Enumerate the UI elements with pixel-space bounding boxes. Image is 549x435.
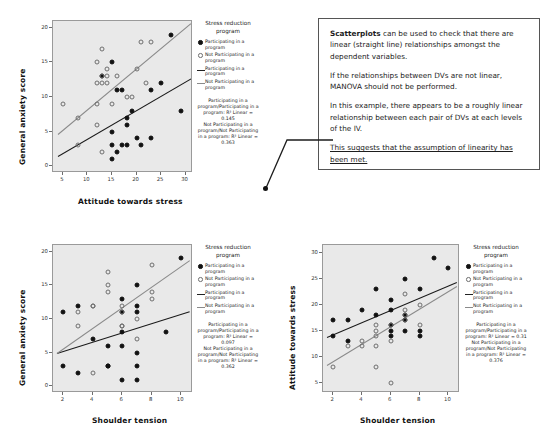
open-circle-icon: [198, 277, 203, 282]
x-tick-label: 25: [157, 176, 164, 182]
y-tick-label: 10: [34, 93, 48, 99]
data-point: [417, 328, 422, 333]
data-point: [331, 333, 336, 338]
legend-entry-label: Participating in a program: [473, 290, 528, 302]
x-tick-mark: [361, 392, 362, 395]
data-point: [61, 364, 66, 369]
callout-paragraph: If the relationships between DVs are not…: [330, 70, 528, 93]
data-point: [388, 339, 393, 344]
y-tick-label: 25: [304, 275, 318, 281]
x-tick-label: 10: [444, 396, 451, 402]
data-point: [403, 313, 408, 318]
data-point: [105, 343, 110, 348]
x-tick-label: 10: [83, 176, 90, 182]
x-axis-title: Attitude towards stress: [78, 197, 183, 206]
legend-title: Stress reduction program: [464, 244, 528, 259]
data-point: [178, 108, 183, 113]
chart-anxiety-vs-attitude: General anxiety score Attitude towards s…: [0, 0, 285, 215]
legend-entry: Participating in a program: [196, 39, 260, 51]
open-circle-icon: [466, 277, 471, 282]
data-point: [144, 81, 149, 86]
legend-entry-label: Participating in a program: [205, 66, 260, 78]
data-point: [388, 380, 393, 385]
x-tick-mark: [62, 172, 63, 175]
x-tick-mark: [390, 392, 391, 395]
legend-key: [196, 39, 205, 45]
callout-leader-dot: [263, 186, 268, 191]
y-tick-mark: [319, 304, 322, 305]
x-tick-label: 30: [181, 176, 188, 182]
legend-title: Stress reduction program: [196, 20, 260, 35]
callout-text: This suggests that the assumption of lin…: [330, 143, 513, 163]
data-point: [90, 370, 95, 375]
data-point: [95, 122, 100, 127]
x-tick-mark: [92, 392, 93, 395]
data-point: [432, 255, 437, 260]
x-tick-label: 4: [90, 396, 93, 402]
legend-fit-statistics: Participating in a program/Participating…: [196, 322, 260, 371]
legend-entries: Participating in a programNot Participat…: [196, 263, 260, 315]
legend-key: [464, 276, 473, 282]
legend-entry: Participating in a program: [464, 263, 528, 275]
data-point: [114, 150, 119, 155]
data-point: [76, 323, 81, 328]
legend-entry-label: Not Participating in a program: [473, 276, 528, 288]
y-tick-label: 10: [34, 315, 48, 321]
y-tick-mark: [49, 251, 52, 252]
y-tick-label: 30: [304, 249, 318, 255]
data-point: [114, 74, 119, 79]
dark-line-icon: [197, 70, 205, 71]
legend-key: [196, 303, 205, 308]
legend: Stress reduction programParticipating in…: [196, 244, 260, 370]
legend-entry: Participating in a program: [196, 66, 260, 78]
data-point: [105, 81, 110, 86]
data-point: [105, 283, 110, 288]
data-point: [135, 283, 140, 288]
data-point: [105, 290, 110, 295]
data-point: [388, 307, 393, 312]
y-tick-mark: [49, 318, 52, 319]
y-tick-mark: [319, 252, 322, 253]
y-tick-label: 5: [34, 128, 48, 134]
callout-text: If the relationships between DVs are not…: [330, 71, 502, 91]
legend-entry: Not Participating in a program: [196, 276, 260, 288]
data-point: [100, 150, 105, 155]
legend-key: [196, 66, 205, 71]
data-point: [179, 256, 184, 261]
legend-entry-label: Not Participating in a program: [205, 303, 260, 315]
y-tick-label: 15: [304, 327, 318, 333]
light-line-icon: [197, 307, 205, 308]
data-point: [120, 330, 125, 335]
data-point: [135, 364, 140, 369]
legend-fit-statistics: Participating in a program/Participating…: [196, 98, 260, 147]
data-point: [139, 143, 144, 148]
x-tick-mark: [111, 172, 112, 175]
data-point: [345, 318, 350, 323]
chart-anxiety-vs-shoulder: General anxiety score Shoulder tension S…: [0, 228, 285, 435]
data-point: [61, 310, 66, 315]
data-point: [90, 337, 95, 342]
y-tick-label: 20: [34, 248, 48, 254]
data-point: [76, 370, 81, 375]
y-tick-label: 5: [34, 349, 48, 355]
y-tick-mark: [49, 385, 52, 386]
data-point: [403, 292, 408, 297]
y-tick-mark: [319, 382, 322, 383]
data-point: [388, 297, 393, 302]
legend-entry-label: Participating in a program: [205, 39, 260, 51]
data-point: [105, 269, 110, 274]
data-point: [139, 39, 144, 44]
data-point: [359, 307, 364, 312]
y-tick-label: 20: [34, 24, 48, 30]
open-circle-icon: [198, 53, 203, 58]
legend-entry-label: Not Participating in a program: [205, 79, 260, 91]
x-tick-label: 10: [177, 396, 184, 402]
data-point: [159, 81, 164, 86]
legend-key: [196, 263, 205, 269]
x-tick-mark: [447, 392, 448, 395]
data-point: [129, 108, 134, 113]
data-point: [135, 310, 140, 315]
data-point: [345, 344, 350, 349]
y-tick-mark: [319, 330, 322, 331]
data-point: [76, 303, 81, 308]
